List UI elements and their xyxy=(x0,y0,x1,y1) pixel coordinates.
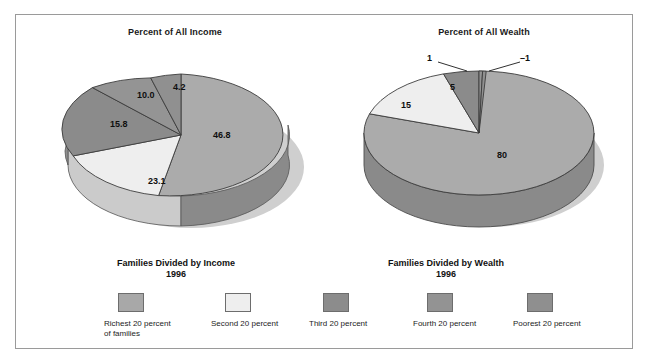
legend-label-fourth: Fourth 20 percent xyxy=(413,319,525,329)
pie-slices-wealth xyxy=(364,71,594,195)
value-label-income-poorest: 4.2 xyxy=(173,82,186,92)
legend-item-fourth: Fourth 20 percent xyxy=(413,293,525,329)
legend-swatch-poorest xyxy=(527,293,553,312)
pie-stage-income xyxy=(16,15,334,265)
pie-chart-wealth xyxy=(334,15,634,265)
caption-income-year: 1996 xyxy=(71,269,281,280)
value-label-wealth-poorest: –1 xyxy=(520,53,530,63)
value-label-wealth-second: 15 xyxy=(401,100,411,110)
value-label-income-richest: 46.8 xyxy=(213,130,231,140)
caption-wealth-year: 1996 xyxy=(341,269,551,280)
legend-item-richest: Richest 20 percent of families xyxy=(104,293,216,338)
value-label-wealth-richest: 80 xyxy=(497,150,507,160)
legend-swatch-third xyxy=(323,293,349,312)
value-label-income-third: 15.8 xyxy=(110,119,128,129)
value-label-wealth-fourth: 1 xyxy=(427,53,432,63)
legend-swatch-second xyxy=(225,293,251,312)
caption-wealth-line1: Families Divided by Wealth xyxy=(388,258,504,268)
value-label-income-fourth: 10.0 xyxy=(137,90,155,100)
caption-income-line1: Families Divided by Income xyxy=(117,258,235,268)
legend-item-poorest: Poorest 20 percent xyxy=(513,293,625,329)
legend: Richest 20 percent of families Second 20… xyxy=(16,293,634,345)
legend-swatch-richest xyxy=(118,293,144,312)
pie-stage-wealth xyxy=(334,15,634,265)
chart-panel-wealth: Percent of All Wealth xyxy=(334,15,634,265)
legend-item-third: Third 20 percent xyxy=(309,293,421,329)
legend-item-second: Second 20 percent xyxy=(211,293,323,329)
pie-chart-income xyxy=(16,15,334,265)
caption-income: Families Divided by Income 1996 xyxy=(71,258,281,280)
legend-label-second: Second 20 percent xyxy=(211,319,323,329)
figure-frame: Percent of All Income xyxy=(15,14,633,349)
legend-label-richest: Richest 20 percent of families xyxy=(104,319,216,338)
caption-wealth: Families Divided by Wealth 1996 xyxy=(341,258,551,280)
value-label-income-second: 23.1 xyxy=(148,176,166,186)
legend-label-poorest: Poorest 20 percent xyxy=(513,319,625,329)
value-label-wealth-third: 5 xyxy=(450,82,455,92)
chart-panel-income: Percent of All Income xyxy=(16,15,334,265)
legend-swatch-fourth xyxy=(427,293,453,312)
legend-label-third: Third 20 percent xyxy=(309,319,421,329)
leader-lines-wealth xyxy=(438,62,520,71)
